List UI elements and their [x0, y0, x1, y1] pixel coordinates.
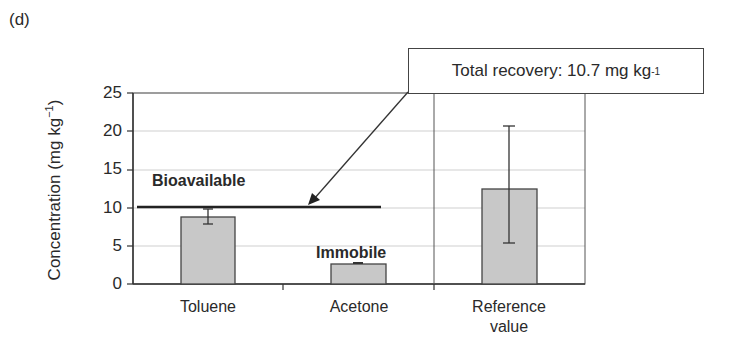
error-bars [203, 126, 515, 263]
x-ticks [283, 284, 434, 290]
bar-acetone [331, 264, 386, 284]
callout-arrow-line [314, 92, 408, 199]
y-ticks [127, 93, 133, 284]
bar-toluene [181, 217, 235, 284]
total-recovery-callout: Total recovery: 10.7 mg kg-1 [408, 48, 704, 94]
x-category-reference-value: Referencevalue [449, 297, 569, 337]
bioavailable-label: Bioavailable [152, 172, 245, 190]
immobile-label: Immobile [316, 244, 386, 262]
x-category-toluene: Toluene [148, 297, 268, 317]
x-category-acetone: Acetone [299, 297, 419, 317]
